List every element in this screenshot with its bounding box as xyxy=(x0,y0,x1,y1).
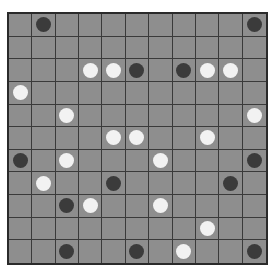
board-cell-r8-c2[interactable] xyxy=(56,195,79,218)
board-cell-r0-c8[interactable] xyxy=(196,14,219,37)
board-cell-r6-c3[interactable] xyxy=(79,150,102,173)
board-cell-r8-c1[interactable] xyxy=(32,195,55,218)
board-cell-r8-c7[interactable] xyxy=(173,195,196,218)
board-cell-r3-c2[interactable] xyxy=(56,82,79,105)
board-cell-r10-c10[interactable] xyxy=(243,240,266,263)
board-cell-r0-c1[interactable] xyxy=(32,14,55,37)
board-cell-r9-c0[interactable] xyxy=(9,218,32,241)
board-cell-r9-c10[interactable] xyxy=(243,218,266,241)
board-cell-r8-c6[interactable] xyxy=(149,195,172,218)
board-cell-r0-c5[interactable] xyxy=(126,14,149,37)
board-cell-r1-c4[interactable] xyxy=(102,37,125,60)
board-cell-r8-c3[interactable] xyxy=(79,195,102,218)
board-cell-r7-c4[interactable] xyxy=(102,172,125,195)
board-cell-r2-c7[interactable] xyxy=(173,59,196,82)
board-cell-r9-c9[interactable] xyxy=(219,218,242,241)
board-cell-r7-c8[interactable] xyxy=(196,172,219,195)
board-cell-r6-c10[interactable] xyxy=(243,150,266,173)
board-cell-r8-c0[interactable] xyxy=(9,195,32,218)
board-cell-r8-c5[interactable] xyxy=(126,195,149,218)
board-cell-r6-c4[interactable] xyxy=(102,150,125,173)
board-cell-r1-c3[interactable] xyxy=(79,37,102,60)
board-cell-r8-c9[interactable] xyxy=(219,195,242,218)
board-cell-r9-c2[interactable] xyxy=(56,218,79,241)
board-cell-r1-c8[interactable] xyxy=(196,37,219,60)
board-cell-r0-c3[interactable] xyxy=(79,14,102,37)
board-cell-r3-c8[interactable] xyxy=(196,82,219,105)
board-cell-r6-c7[interactable] xyxy=(173,150,196,173)
board-cell-r9-c3[interactable] xyxy=(79,218,102,241)
board-cell-r5-c4[interactable] xyxy=(102,127,125,150)
board-cell-r5-c1[interactable] xyxy=(32,127,55,150)
board-cell-r4-c10[interactable] xyxy=(243,105,266,128)
board-cell-r1-c5[interactable] xyxy=(126,37,149,60)
board-cell-r6-c2[interactable] xyxy=(56,150,79,173)
board-cell-r3-c7[interactable] xyxy=(173,82,196,105)
board-cell-r5-c0[interactable] xyxy=(9,127,32,150)
board-cell-r4-c5[interactable] xyxy=(126,105,149,128)
board-cell-r7-c3[interactable] xyxy=(79,172,102,195)
board-cell-r3-c5[interactable] xyxy=(126,82,149,105)
board-cell-r1-c10[interactable] xyxy=(243,37,266,60)
board-cell-r2-c9[interactable] xyxy=(219,59,242,82)
board-cell-r2-c8[interactable] xyxy=(196,59,219,82)
board-cell-r10-c1[interactable] xyxy=(32,240,55,263)
board-cell-r2-c5[interactable] xyxy=(126,59,149,82)
board-cell-r7-c7[interactable] xyxy=(173,172,196,195)
board-cell-r6-c0[interactable] xyxy=(9,150,32,173)
board-cell-r4-c4[interactable] xyxy=(102,105,125,128)
board-cell-r5-c8[interactable] xyxy=(196,127,219,150)
board-cell-r9-c1[interactable] xyxy=(32,218,55,241)
board-cell-r4-c2[interactable] xyxy=(56,105,79,128)
board-cell-r7-c10[interactable] xyxy=(243,172,266,195)
board-cell-r5-c6[interactable] xyxy=(149,127,172,150)
board-cell-r6-c1[interactable] xyxy=(32,150,55,173)
board-cell-r10-c8[interactable] xyxy=(196,240,219,263)
board-cell-r1-c0[interactable] xyxy=(9,37,32,60)
board-cell-r0-c0[interactable] xyxy=(9,14,32,37)
board-cell-r6-c6[interactable] xyxy=(149,150,172,173)
board-cell-r3-c10[interactable] xyxy=(243,82,266,105)
board-cell-r4-c8[interactable] xyxy=(196,105,219,128)
board-cell-r5-c3[interactable] xyxy=(79,127,102,150)
board-cell-r10-c7[interactable] xyxy=(173,240,196,263)
board-cell-r3-c9[interactable] xyxy=(219,82,242,105)
board-cell-r4-c9[interactable] xyxy=(219,105,242,128)
board-cell-r2-c1[interactable] xyxy=(32,59,55,82)
board-cell-r4-c7[interactable] xyxy=(173,105,196,128)
board-cell-r7-c0[interactable] xyxy=(9,172,32,195)
board-cell-r5-c7[interactable] xyxy=(173,127,196,150)
board-cell-r10-c9[interactable] xyxy=(219,240,242,263)
board-cell-r5-c9[interactable] xyxy=(219,127,242,150)
board-cell-r5-c2[interactable] xyxy=(56,127,79,150)
board-cell-r5-c5[interactable] xyxy=(126,127,149,150)
board-cell-r4-c3[interactable] xyxy=(79,105,102,128)
board-cell-r7-c9[interactable] xyxy=(219,172,242,195)
board-cell-r0-c4[interactable] xyxy=(102,14,125,37)
board-cell-r0-c2[interactable] xyxy=(56,14,79,37)
board-cell-r4-c0[interactable] xyxy=(9,105,32,128)
board-cell-r10-c3[interactable] xyxy=(79,240,102,263)
board-cell-r10-c6[interactable] xyxy=(149,240,172,263)
board-cell-r0-c7[interactable] xyxy=(173,14,196,37)
board-cell-r2-c4[interactable] xyxy=(102,59,125,82)
board-cell-r1-c2[interactable] xyxy=(56,37,79,60)
board-cell-r6-c9[interactable] xyxy=(219,150,242,173)
board-cell-r0-c10[interactable] xyxy=(243,14,266,37)
board-cell-r2-c0[interactable] xyxy=(9,59,32,82)
board-cell-r3-c1[interactable] xyxy=(32,82,55,105)
board-cell-r3-c6[interactable] xyxy=(149,82,172,105)
board-cell-r2-c3[interactable] xyxy=(79,59,102,82)
board-cell-r9-c6[interactable] xyxy=(149,218,172,241)
board-cell-r10-c2[interactable] xyxy=(56,240,79,263)
board-cell-r6-c5[interactable] xyxy=(126,150,149,173)
board-cell-r7-c2[interactable] xyxy=(56,172,79,195)
board-cell-r8-c4[interactable] xyxy=(102,195,125,218)
board-cell-r6-c8[interactable] xyxy=(196,150,219,173)
board-cell-r10-c0[interactable] xyxy=(9,240,32,263)
board-cell-r3-c3[interactable] xyxy=(79,82,102,105)
board-cell-r4-c6[interactable] xyxy=(149,105,172,128)
board-cell-r1-c6[interactable] xyxy=(149,37,172,60)
board-cell-r8-c8[interactable] xyxy=(196,195,219,218)
board-cell-r1-c1[interactable] xyxy=(32,37,55,60)
